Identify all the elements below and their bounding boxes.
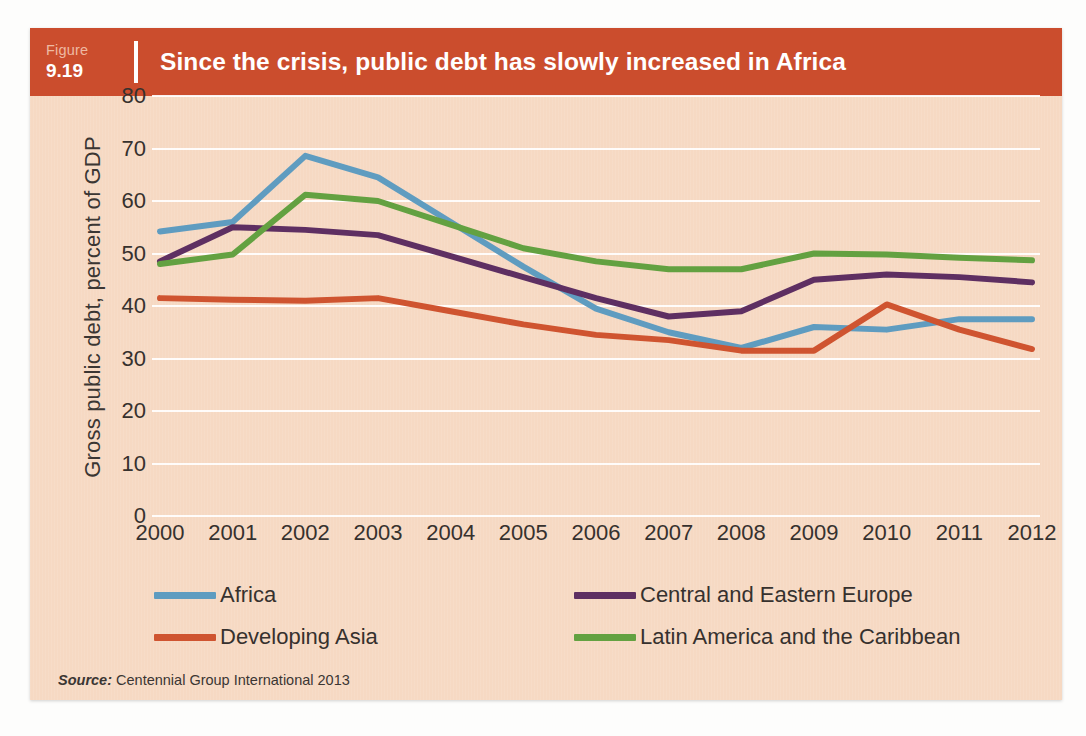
y-axis-tick: 70 [88,136,146,162]
x-axis-tick: 2005 [499,520,548,546]
legend-label: Africa [220,582,276,608]
grid-area [152,96,1040,516]
legend-label: Developing Asia [220,624,378,650]
legend-label: Latin America and the Caribbean [640,624,960,650]
plot-area: Gross public debt, percent of GDP 807060… [30,96,1062,700]
legend-row-1: Africa Central and Eastern Europe [154,574,1014,616]
legend-item-developing-asia[interactable]: Developing Asia [154,624,574,650]
x-axis-tick: 2003 [354,520,403,546]
x-axis-tick: 2000 [136,520,185,546]
chart-legend: Africa Central and Eastern Europe Develo… [154,574,1014,658]
header-divider [134,41,138,83]
legend-swatch-icon [154,592,216,599]
legend-item-central-and-eastern-europe[interactable]: Central and Eastern Europe [574,582,1014,608]
x-axis-tick: 2011 [936,520,983,546]
x-axis-tick: 2004 [426,520,475,546]
legend-row-2: Developing Asia Latin America and the Ca… [154,616,1014,658]
legend-swatch-icon [574,634,636,641]
x-axis-tick: 2001 [208,520,257,546]
figure-page: Figure 9.19 Since the crisis, public deb… [0,0,1086,736]
series-line-africa [160,156,1032,348]
y-axis-tick: 80 [88,83,146,109]
figure-label-word: Figure [46,43,134,58]
figure-number-block: Figure 9.19 [30,43,134,80]
x-axis-tick: 2007 [644,520,693,546]
figure-title: Since the crisis, public debt has slowly… [160,48,846,76]
source-text: Centennial Group International 2013 [116,672,350,688]
line-chart-canvas [152,96,1040,516]
legend-item-africa[interactable]: Africa [154,582,574,608]
y-axis-tick-labels: 80706050403020100 [88,96,146,516]
y-axis-tick: 60 [88,188,146,214]
y-axis-tick: 30 [88,346,146,372]
y-axis-tick: 20 [88,398,146,424]
x-axis-tick-labels: 2000200120022003200420052006200720082009… [152,520,1040,554]
legend-label: Central and Eastern Europe [640,582,913,608]
figure-card: Figure 9.19 Since the crisis, public deb… [30,28,1062,700]
y-axis-tick: 50 [88,241,146,267]
source-note: Source: Centennial Group International 2… [58,672,350,688]
x-axis-tick: 2009 [790,520,839,546]
x-axis-tick: 2012 [1008,520,1057,546]
y-axis-tick: 10 [88,451,146,477]
x-axis-tick: 2002 [281,520,330,546]
x-axis-tick: 2006 [572,520,621,546]
x-axis-tick: 2010 [862,520,911,546]
figure-number: 9.19 [46,61,134,81]
figure-header-band: Figure 9.19 Since the crisis, public deb… [30,28,1062,96]
x-axis-tick: 2008 [717,520,766,546]
source-prefix: Source: [58,672,112,688]
legend-swatch-icon [574,592,636,599]
legend-item-latin-america-and-the-caribbean[interactable]: Latin America and the Caribbean [574,624,1014,650]
legend-swatch-icon [154,634,216,641]
y-axis-tick: 40 [88,293,146,319]
